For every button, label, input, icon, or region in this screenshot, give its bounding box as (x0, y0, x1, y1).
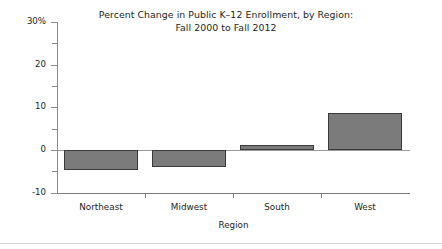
x-tick-3 (321, 193, 322, 198)
y-tick-10: 10 (51, 107, 58, 108)
y-tick-label-30: 30% (27, 16, 46, 27)
y-tick-label-20: 20 (35, 59, 46, 70)
bar-south[interactable] (240, 145, 314, 150)
y-tick-minus-5 (52, 171, 58, 172)
x-label-midwest: Midwest (149, 202, 229, 213)
x-label-northeast: Northeast (61, 202, 141, 213)
y-tick-label-minus-10: -10 (32, 187, 46, 198)
y-tick-minus-10: -10 (51, 193, 58, 194)
y-tick-0: 0 (51, 150, 58, 151)
y-tick-20: 20 (51, 65, 58, 66)
bar-west[interactable] (328, 113, 402, 150)
y-tick-5 (52, 129, 58, 130)
bar-midwest[interactable] (152, 150, 226, 167)
y-tick-30: 30% (51, 22, 58, 23)
y-tick-15 (52, 86, 58, 87)
x-label-south: South (237, 202, 317, 213)
chart-figure: Percent Change in Public K–12 Enrollment… (0, 0, 442, 249)
chart-title-line1: Percent Change in Public K–12 Enrollment… (99, 9, 353, 20)
x-tick-1 (145, 193, 146, 198)
y-tick-25 (52, 43, 58, 44)
y-tick-label-0: 0 (41, 144, 46, 155)
x-label-west: West (325, 202, 405, 213)
bar-northeast[interactable] (64, 150, 138, 170)
y-tick-label-10: 10 (35, 101, 46, 112)
x-tick-2 (233, 193, 234, 198)
plot-area: 30% 20 10 0 -10 Northeast Midwest South (57, 22, 410, 193)
footer-divider (0, 243, 442, 244)
x-axis-title: Region (57, 220, 410, 231)
